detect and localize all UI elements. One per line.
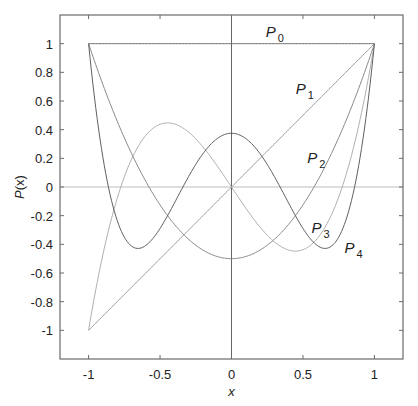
x-tick-label: 0 bbox=[228, 367, 235, 382]
y-tick-label: 0.8 bbox=[35, 65, 53, 80]
x-tick-label: -0.5 bbox=[149, 367, 171, 382]
y-tick-label: 0.6 bbox=[35, 94, 53, 109]
curve-label-p3: P3 bbox=[312, 219, 330, 240]
curve-label-p0: P0 bbox=[266, 23, 284, 44]
y-tick-label: -0.8 bbox=[31, 295, 53, 310]
y-tick-label: 0 bbox=[46, 180, 53, 195]
x-axis-tick-labels: -1-0.500.51 bbox=[83, 367, 378, 382]
y-tick-label: 1 bbox=[46, 37, 53, 52]
curve-label-p4: P4 bbox=[344, 239, 362, 260]
y-tick-label: 0.4 bbox=[35, 123, 53, 138]
y-tick-label: -0.2 bbox=[31, 209, 53, 224]
y-tick-label: -1 bbox=[41, 323, 53, 338]
legendre-polynomials-chart: 10.80.60.40.20-0.2-0.4-0.6-0.8-1 -1-0.50… bbox=[0, 0, 418, 406]
x-tick-label: -1 bbox=[83, 367, 95, 382]
curve-label-p2: P2 bbox=[307, 149, 325, 170]
x-axis-title: x bbox=[227, 384, 235, 399]
x-tick-label: 0.5 bbox=[294, 367, 312, 382]
y-axis-tick-labels: 10.80.60.40.20-0.2-0.4-0.6-0.8-1 bbox=[31, 37, 53, 339]
x-tick-label: 1 bbox=[371, 367, 378, 382]
curve-labels: P0P1P2P3P4 bbox=[266, 23, 363, 260]
y-tick-label: -0.6 bbox=[31, 266, 53, 281]
y-tick-label: 0.2 bbox=[35, 151, 53, 166]
y-tick-label: -0.4 bbox=[31, 237, 53, 252]
curve-label-p1: P1 bbox=[296, 80, 314, 101]
y-axis-title: P(x) bbox=[12, 175, 27, 199]
